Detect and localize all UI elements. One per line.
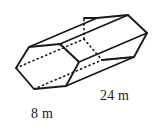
prism-drawing xyxy=(0,0,157,130)
back-face-outline xyxy=(97,15,147,60)
lateral-edge-right xyxy=(79,33,147,62)
front-face-outline xyxy=(16,44,79,89)
hidden-edges-group xyxy=(16,18,134,89)
hexagonal-prism-figure: 24 m 8 m xyxy=(0,0,157,130)
base-edge-dimension-label: 8 m xyxy=(31,106,53,122)
hidden-edge-lateral-upper xyxy=(16,39,84,68)
length-dimension-label: 24 m xyxy=(100,88,129,104)
visible-edges-group xyxy=(16,15,147,89)
